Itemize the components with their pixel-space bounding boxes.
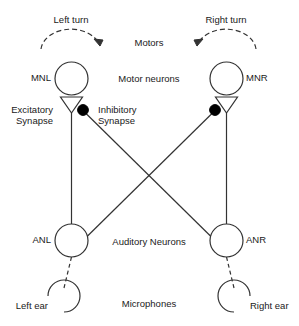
excitatory-synapse-label-line1: Excitatory bbox=[11, 104, 53, 115]
auditory-neuron-left-soma bbox=[55, 224, 88, 257]
microphone-link-right bbox=[227, 257, 235, 288]
right-ear-icon bbox=[218, 280, 250, 312]
circuit-svg bbox=[0, 0, 299, 326]
motor-neuron-left-soma bbox=[55, 62, 88, 95]
auditory-neuron-left-label: ANL bbox=[33, 234, 51, 246]
left-turn-label: Left turn bbox=[54, 14, 89, 26]
excitatory-synapse-label: Excitatory Synapse bbox=[11, 104, 53, 126]
inhibitory-axon-right-to-left bbox=[85, 113, 213, 239]
inhibitory-synapse-label-line1: Inhibitory bbox=[98, 104, 137, 115]
left-ear-icon bbox=[48, 280, 80, 312]
motor-neuron-right-soma bbox=[210, 62, 243, 95]
microphone-link-left bbox=[64, 257, 72, 288]
left-ear-label: Left ear bbox=[16, 300, 48, 312]
left-turn-arrow-icon bbox=[41, 29, 103, 49]
inhibitory-synapse-left-icon bbox=[78, 105, 89, 116]
right-turn-arrow-icon bbox=[194, 29, 256, 49]
right-ear-label: Right ear bbox=[250, 300, 289, 312]
motors-section-label: Motors bbox=[134, 37, 163, 49]
auditory-neurons-section-label: Auditory Neurons bbox=[112, 236, 185, 248]
right-turn-label: Right turn bbox=[205, 14, 246, 26]
motor-neuron-left-label: MNL bbox=[31, 72, 51, 84]
microphones-section-label: Microphones bbox=[122, 298, 176, 310]
motor-neuron-right-label: MNR bbox=[246, 72, 268, 84]
inhibitory-synapse-label-line2: Synapse bbox=[98, 115, 137, 126]
auditory-neuron-right-soma bbox=[210, 224, 243, 257]
inhibitory-axon-left-to-right bbox=[86, 113, 214, 239]
inhibitory-synapse-label: Inhibitory Synapse bbox=[98, 104, 137, 126]
inhibitory-synapse-right-icon bbox=[210, 105, 221, 116]
excitatory-synapse-label-line2: Synapse bbox=[11, 115, 53, 126]
auditory-neuron-right-label: ANR bbox=[246, 234, 266, 246]
neural-circuit-diagram: Left turn Right turn Motors MNL MNR Moto… bbox=[0, 0, 299, 326]
motor-neurons-section-label: Motor neurons bbox=[118, 73, 179, 85]
